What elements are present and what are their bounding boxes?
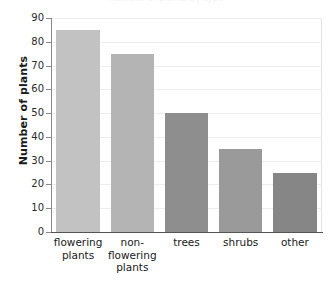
x-axis-label-line: flowering	[105, 249, 159, 262]
bar-slot	[214, 18, 268, 232]
bar[interactable]	[165, 113, 208, 232]
cropped-chart-title: Number of plants by type	[0, 0, 333, 3]
bar-slot	[268, 18, 322, 232]
x-axis-line	[51, 232, 323, 233]
bar-slot	[159, 18, 213, 232]
x-axis-label-line: other	[268, 236, 322, 249]
x-axis-label: other	[268, 236, 322, 249]
x-axis-label-line: plants	[51, 249, 105, 262]
y-axis-tick	[46, 232, 51, 233]
bar-slot	[51, 18, 105, 232]
x-axis-label-line: non-	[105, 236, 159, 249]
bar-chart: Number of plants by type Number of plant…	[0, 0, 333, 284]
bar[interactable]	[56, 30, 99, 232]
x-axis-label-line: trees	[159, 236, 213, 249]
bar-slot	[105, 18, 159, 232]
x-axis-labels: floweringplantsnon-floweringplantstreess…	[51, 236, 322, 284]
x-axis-label: floweringplants	[51, 236, 105, 261]
x-axis-label: non-floweringplants	[105, 236, 159, 274]
y-axis-tick-label: 50	[4, 108, 44, 118]
x-axis-label-line: plants	[105, 261, 159, 274]
x-axis-label-line: flowering	[51, 236, 105, 249]
y-axis-tick-label: 30	[4, 156, 44, 166]
y-axis-tick-label: 60	[4, 84, 44, 94]
y-axis-tick-label: 10	[4, 203, 44, 213]
x-axis-label: shrubs	[214, 236, 268, 249]
bar[interactable]	[273, 173, 316, 232]
y-axis-tick-label: 0	[4, 227, 44, 237]
y-axis-tick-label: 20	[4, 179, 44, 189]
bar-series	[51, 18, 322, 232]
y-axis-tick-label: 70	[4, 61, 44, 71]
y-axis-tick-label: 90	[4, 13, 44, 23]
y-axis-tick-label: 40	[4, 132, 44, 142]
x-axis-label-line: shrubs	[214, 236, 268, 249]
bar[interactable]	[219, 149, 262, 232]
x-axis-label: trees	[159, 236, 213, 249]
bar[interactable]	[111, 54, 154, 232]
y-axis-tick-label: 80	[4, 37, 44, 47]
